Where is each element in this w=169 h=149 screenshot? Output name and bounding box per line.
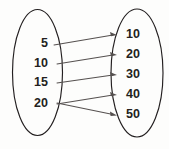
mapping-arrow-5-to-10 bbox=[54, 32, 117, 45]
mapping-line bbox=[57, 103, 113, 115]
mapping-arrows-group bbox=[54, 32, 117, 116]
mapping-arrow-15-to-30 bbox=[57, 72, 117, 83]
mapping-line bbox=[54, 35, 113, 45]
mapping-diagram: 5 10 15 20 10 20 30 40 50 bbox=[0, 0, 169, 149]
mapping-line bbox=[57, 75, 113, 83]
domain-ellipse bbox=[13, 10, 63, 136]
mapping-line bbox=[57, 95, 113, 104]
mapping-line bbox=[57, 55, 113, 64]
domain-ellipse-group bbox=[13, 10, 63, 136]
mapping-arrow-20-to-50 bbox=[57, 103, 117, 116]
codomain-item-2: 20 bbox=[126, 47, 140, 61]
codomain-item-5: 50 bbox=[126, 107, 140, 121]
arrowhead-icon bbox=[110, 72, 117, 76]
domain-labels-group: 5 10 15 20 bbox=[34, 36, 48, 110]
codomain-item-3: 30 bbox=[126, 67, 140, 81]
mapping-arrow-20-to-40 bbox=[57, 92, 117, 104]
codomain-item-4: 40 bbox=[126, 87, 140, 101]
domain-item-1: 5 bbox=[41, 36, 48, 50]
mapping-arrow-10-to-20 bbox=[57, 52, 117, 64]
domain-item-3: 15 bbox=[34, 75, 48, 89]
arrowhead-icon bbox=[110, 92, 117, 96]
domain-item-2: 10 bbox=[34, 56, 48, 70]
arrowhead-icon bbox=[110, 52, 117, 56]
codomain-item-1: 10 bbox=[126, 27, 140, 41]
codomain-labels-group: 10 20 30 40 50 bbox=[126, 27, 140, 121]
mapping-diagram-canvas: 5 10 15 20 10 20 30 40 50 bbox=[0, 0, 169, 149]
domain-item-4: 20 bbox=[34, 96, 48, 110]
